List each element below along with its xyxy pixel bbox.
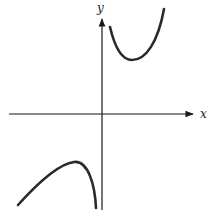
upper-branch-curve xyxy=(110,9,164,60)
y-axis-label: y xyxy=(96,1,104,15)
lower-branch-curve xyxy=(18,162,96,208)
x-axis-label: x xyxy=(200,107,207,121)
function-graph: x y xyxy=(0,0,216,218)
